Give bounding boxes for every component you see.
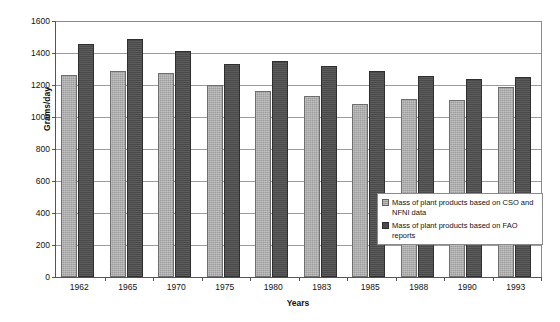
- bar: [369, 71, 385, 277]
- x-axis-tick-mark: [299, 277, 300, 281]
- legend-swatch-icon: [382, 199, 389, 206]
- bar: [158, 73, 174, 277]
- x-axis-tick-mark: [153, 277, 154, 281]
- x-axis-tick-mark: [444, 277, 445, 281]
- bar-chart-figure: Grams/day 02004006008001000120014001600 …: [0, 0, 560, 322]
- y-axis-tick-label: 1600: [14, 16, 50, 26]
- bar: [61, 75, 77, 277]
- legend-entry: Mass of plant products based on FAO repo…: [382, 221, 538, 240]
- x-axis-tick-labels: 1962196519701975198019831985198819901993: [55, 282, 541, 296]
- bar: [352, 104, 368, 277]
- y-axis-tick-label: 600: [14, 176, 50, 186]
- bar: [515, 77, 531, 277]
- legend-swatch-icon: [382, 222, 389, 229]
- x-axis-title: Years: [55, 298, 541, 308]
- x-axis-tick-mark: [493, 277, 494, 281]
- x-axis-tick-mark: [105, 277, 106, 281]
- y-axis-tick-mark: [52, 277, 56, 278]
- x-axis-tick-mark: [202, 277, 203, 281]
- x-axis-tick-mark: [250, 277, 251, 281]
- x-axis-tick-mark: [347, 277, 348, 281]
- x-axis-tick-label: 1993: [486, 282, 546, 292]
- bar: [207, 85, 223, 277]
- bar-group: [105, 21, 154, 277]
- bar: [449, 100, 465, 277]
- bar: [272, 61, 288, 277]
- bar: [466, 79, 482, 277]
- bar: [321, 66, 337, 277]
- bar-group: [250, 21, 299, 277]
- y-axis-tick-label: 200: [14, 240, 50, 250]
- y-axis-tick-label: 0: [14, 272, 50, 282]
- legend-label: Mass of plant products based on FAO repo…: [392, 221, 538, 240]
- bar-group: [202, 21, 251, 277]
- chart-legend: Mass of plant products based on CSO and …: [377, 193, 543, 245]
- bar: [127, 39, 143, 277]
- bar: [418, 76, 434, 277]
- y-axis-tick-label: 400: [14, 208, 50, 218]
- bar-group: [153, 21, 202, 277]
- bar: [175, 51, 191, 277]
- bar: [224, 64, 240, 277]
- y-axis-tick-labels: 02004006008001000120014001600: [14, 0, 50, 322]
- bar: [304, 96, 320, 277]
- y-axis-tick-label: 800: [14, 144, 50, 154]
- y-axis-tick-label: 1000: [14, 112, 50, 122]
- legend-entry: Mass of plant products based on CSO and …: [382, 198, 538, 217]
- bar: [255, 91, 271, 277]
- bar: [110, 71, 126, 277]
- y-axis-tick-label: 1400: [14, 48, 50, 58]
- x-axis-tick-mark: [541, 277, 542, 281]
- bar-group: [299, 21, 348, 277]
- bar: [78, 44, 94, 277]
- bar: [401, 99, 417, 277]
- x-axis-tick-mark: [396, 277, 397, 281]
- bar-group: [56, 21, 105, 277]
- y-axis-tick-label: 1200: [14, 80, 50, 90]
- bar: [498, 87, 514, 277]
- legend-label: Mass of plant products based on CSO and …: [392, 198, 538, 217]
